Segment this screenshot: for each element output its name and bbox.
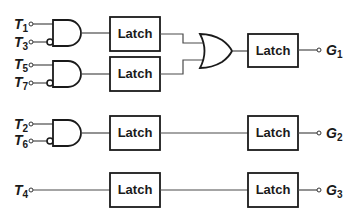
input-t1: T1: [14, 16, 33, 34]
output-g1: G1: [317, 42, 343, 60]
latch-5-label: Latch: [256, 125, 291, 140]
output-g3-terminal: [317, 188, 321, 192]
output-g2-label: G2: [326, 125, 343, 143]
input-t4: T4: [14, 182, 33, 200]
input-t6: T6: [14, 132, 33, 150]
input-t6-label: T6: [14, 132, 29, 150]
input-t3-label: T3: [14, 34, 29, 52]
latch-2-label: Latch: [118, 66, 153, 81]
input-t6-terminal: [29, 139, 33, 143]
input-t7: T7: [14, 74, 33, 92]
input-t7-terminal: [29, 81, 33, 85]
output-g1-label: G1: [326, 42, 343, 60]
input-t3-terminal: [29, 40, 33, 44]
input-t2-terminal: [29, 122, 33, 126]
output-g3: G3: [317, 182, 343, 200]
and-gate-1: [53, 20, 81, 46]
output-g2-terminal: [317, 131, 321, 135]
input-t5-terminal: [29, 63, 33, 67]
output-g1-terminal: [317, 48, 321, 52]
latch-4-label: Latch: [118, 125, 153, 140]
output-g2: G2: [317, 125, 343, 143]
and-gate-3: [53, 120, 81, 146]
input-t5: T5: [14, 56, 33, 74]
latch-1-label: Latch: [118, 26, 153, 41]
input-t7-label: T7: [14, 74, 29, 92]
latch-3-label: Latch: [256, 43, 291, 58]
input-t3: T3: [14, 34, 33, 52]
input-t1-terminal: [29, 22, 33, 26]
and-gate-2: [53, 61, 81, 87]
latch-7-label: Latch: [256, 182, 291, 197]
latch-6-label: Latch: [118, 182, 153, 197]
input-t4-terminal: [29, 188, 33, 192]
logic-circuit-diagram: T1 T3 Latch T5 T7 Latch Latch G1 T2: [0, 0, 353, 222]
input-t4-label: T4: [14, 182, 29, 200]
input-t1-label: T1: [14, 16, 29, 34]
or-gate: [200, 34, 232, 68]
output-g3-label: G3: [326, 182, 343, 200]
input-t5-label: T5: [14, 56, 29, 74]
